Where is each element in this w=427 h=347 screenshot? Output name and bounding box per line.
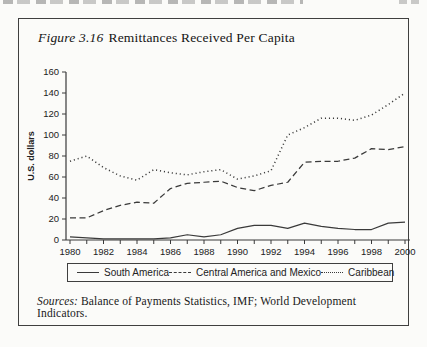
legend-label-central-america-and-mexico: Central America and Mexico bbox=[196, 267, 321, 278]
sources-text: Balance of Payments Statistics, IMF; Wor… bbox=[37, 295, 356, 319]
dashed-line-sample-icon bbox=[169, 272, 191, 273]
x-tick-label: 1984 bbox=[126, 246, 147, 257]
sources-note: Sources: Balance of Payments Statistics,… bbox=[37, 295, 397, 319]
y-axis-title: U.S. dollars bbox=[26, 131, 36, 181]
legend-label-south-america: South America bbox=[104, 267, 169, 278]
legend-label-caribbean: Caribbean bbox=[348, 267, 394, 278]
legend-item-central-america-and-mexico: Central America and Mexico bbox=[169, 267, 321, 278]
y-tick-label: 140 bbox=[43, 87, 59, 98]
series-line-caribbean bbox=[70, 93, 405, 180]
series-line-central-america-and-mexico bbox=[70, 147, 405, 218]
series-line-south-america bbox=[70, 222, 405, 239]
x-tick-label: 1992 bbox=[260, 246, 281, 257]
dotted-line-sample-icon bbox=[321, 272, 343, 273]
solid-line-sample-icon bbox=[77, 272, 99, 273]
x-tick-label: 1982 bbox=[93, 246, 114, 257]
x-tick-label: 2000 bbox=[394, 246, 415, 257]
y-tick-label: 0 bbox=[54, 234, 59, 245]
y-tick-label: 20 bbox=[48, 213, 59, 224]
x-tick-label: 1990 bbox=[227, 246, 248, 257]
y-tick-label: 120 bbox=[43, 108, 59, 119]
y-tick-label: 80 bbox=[48, 150, 59, 161]
x-tick-label: 1980 bbox=[59, 246, 80, 257]
y-tick-label: 40 bbox=[48, 192, 59, 203]
sources-label: Sources: bbox=[37, 295, 78, 307]
chart-legend: South America Central America and Mexico… bbox=[67, 263, 393, 282]
x-tick-label: 1996 bbox=[327, 246, 348, 257]
y-tick-label: 100 bbox=[43, 129, 59, 140]
x-tick-label: 1986 bbox=[160, 246, 181, 257]
y-tick-label: 160 bbox=[43, 66, 59, 77]
legend-item-south-america: South America bbox=[77, 267, 169, 278]
x-tick-label: 1998 bbox=[361, 246, 382, 257]
x-tick-label: 1994 bbox=[294, 246, 315, 257]
x-tick-label: 1988 bbox=[193, 246, 214, 257]
y-tick-label: 60 bbox=[48, 171, 59, 182]
legend-item-caribbean: Caribbean bbox=[321, 267, 394, 278]
